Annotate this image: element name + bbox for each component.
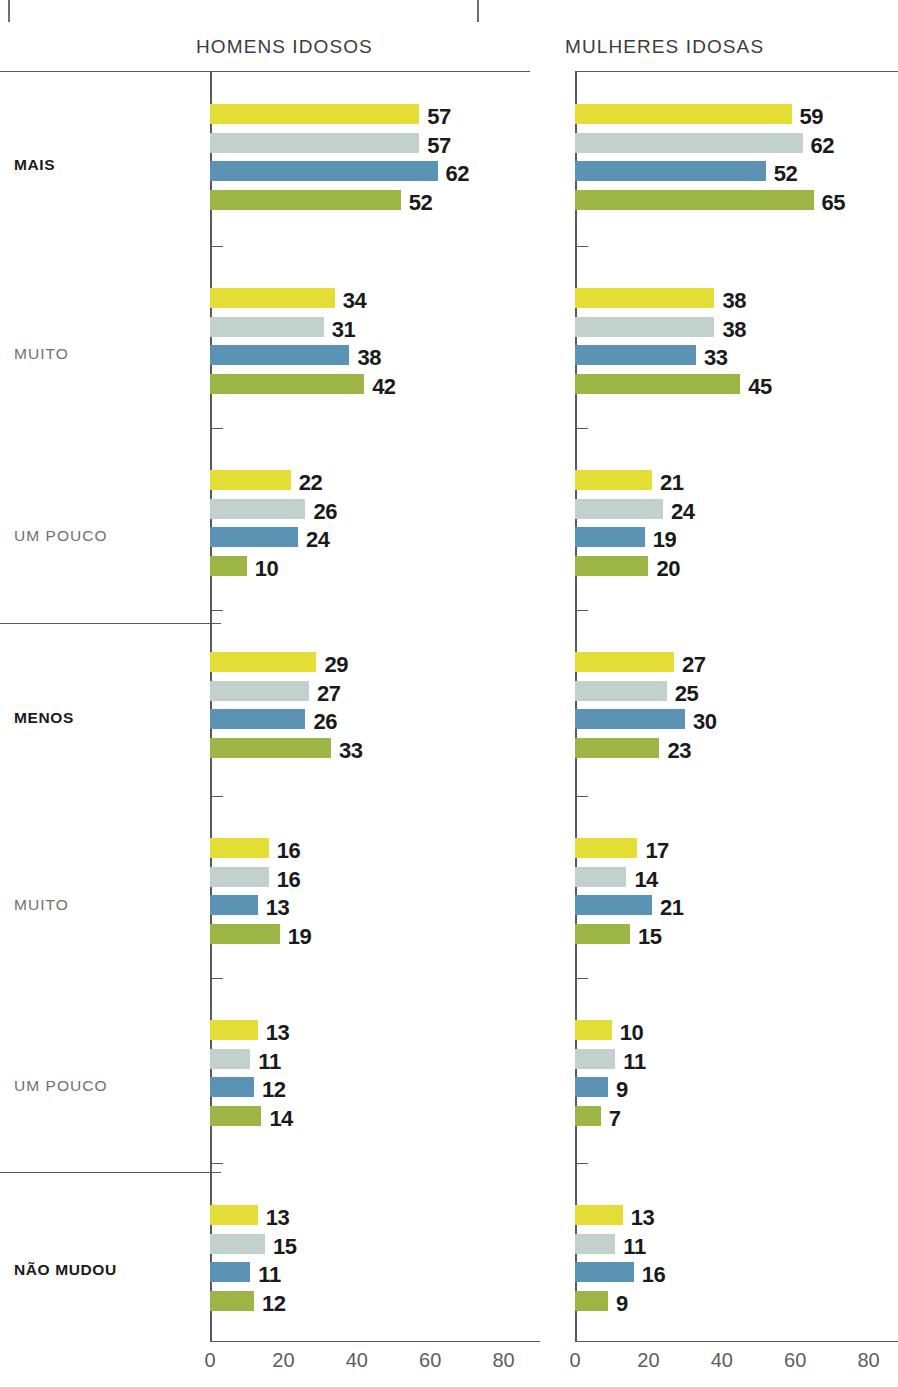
- bar-value-label: 33: [339, 740, 362, 762]
- bar: [210, 527, 298, 547]
- bar-value-label: 9: [616, 1079, 628, 1101]
- bar-value-label: 13: [631, 1207, 654, 1229]
- y-axis-line: [575, 72, 577, 1341]
- x-axis-tick-label: 80: [857, 1349, 879, 1372]
- bar-value-label: 11: [623, 1051, 645, 1073]
- bar-value-label: 16: [642, 1264, 665, 1286]
- bar: [210, 104, 419, 124]
- bar-value-label: 62: [446, 163, 469, 185]
- bar: [210, 895, 258, 915]
- bar-value-label: 38: [722, 319, 745, 341]
- bar: [210, 867, 269, 887]
- group-separator-tick: [210, 796, 223, 797]
- bar: [210, 470, 291, 490]
- bar-value-label: 42: [372, 376, 395, 398]
- bar-value-label: 10: [255, 558, 278, 580]
- bar: [575, 1049, 615, 1069]
- bar-value-label: 15: [638, 926, 661, 948]
- bar-value-label: 62: [811, 135, 834, 157]
- row-group-label: NÃO MUDOU: [14, 1261, 117, 1279]
- bar: [575, 709, 685, 729]
- x-axis-tick-label: 20: [272, 1349, 294, 1372]
- bar: [210, 924, 280, 944]
- group-separator-tick: [210, 1163, 223, 1164]
- bar: [575, 738, 659, 758]
- x-axis-line: [575, 1341, 898, 1342]
- bar-value-label: 23: [667, 740, 690, 762]
- bar-value-label: 11: [623, 1236, 645, 1258]
- bar-value-label: 57: [427, 135, 450, 157]
- group-separator-tick: [575, 978, 588, 979]
- bar: [210, 1049, 250, 1069]
- menos-divider-rule: [0, 623, 221, 624]
- bar: [575, 374, 740, 394]
- bar-value-label: 11: [258, 1051, 280, 1073]
- bar: [575, 838, 637, 858]
- bar-value-label: 30: [693, 711, 716, 733]
- bar-value-label: 26: [313, 501, 336, 523]
- bar: [210, 556, 247, 576]
- bar-value-label: 20: [656, 558, 679, 580]
- bar: [575, 867, 626, 887]
- bar-value-label: 24: [671, 501, 694, 523]
- row-group-label: UM POUCO: [14, 1077, 108, 1095]
- bar: [210, 374, 364, 394]
- group-separator-tick: [575, 610, 588, 611]
- bar: [575, 104, 792, 124]
- bar: [575, 499, 663, 519]
- bar-value-label: 11: [258, 1264, 280, 1286]
- group-separator-tick: [210, 246, 223, 247]
- bar: [210, 1291, 254, 1311]
- panel-title-homens: HOMENS IDOSOS: [196, 36, 373, 58]
- bar: [575, 161, 766, 181]
- bar-value-label: 27: [682, 654, 705, 676]
- bar: [210, 1205, 258, 1225]
- bar: [575, 133, 803, 153]
- bar: [575, 470, 652, 490]
- bar: [575, 317, 714, 337]
- bar-value-label: 59: [800, 106, 823, 128]
- x-axis-tick-label: 40: [711, 1349, 733, 1372]
- bar-value-label: 19: [653, 529, 676, 551]
- bar-value-label: 45: [748, 376, 771, 398]
- bar-value-label: 16: [277, 840, 300, 862]
- bar-value-label: 13: [266, 1207, 289, 1229]
- bar-value-label: 14: [269, 1108, 292, 1130]
- y-axis-line: [210, 72, 212, 1341]
- row-group-label: MAIS: [14, 156, 55, 174]
- row-group-label: MUITO: [14, 896, 69, 914]
- bar: [210, 161, 438, 181]
- bar: [575, 1291, 608, 1311]
- bar-value-label: 25: [675, 683, 698, 705]
- bar-value-label: 14: [634, 869, 657, 891]
- bar-value-label: 33: [704, 347, 727, 369]
- bar: [210, 288, 335, 308]
- bar: [210, 1262, 250, 1282]
- group-separator-tick: [210, 428, 223, 429]
- bar: [575, 345, 696, 365]
- bar: [575, 1234, 615, 1254]
- bar: [210, 1234, 265, 1254]
- group-separator-tick: [575, 1163, 588, 1164]
- bar-value-label: 31: [332, 319, 355, 341]
- bar-value-label: 38: [357, 347, 380, 369]
- top-rule-right: [575, 71, 898, 72]
- bar: [210, 1077, 254, 1097]
- bar-value-label: 26: [313, 711, 336, 733]
- row-group-label: UM POUCO: [14, 527, 108, 545]
- group-separator-tick: [575, 246, 588, 247]
- bar-value-label: 57: [427, 106, 450, 128]
- bar-value-label: 13: [266, 897, 289, 919]
- bar: [575, 1262, 634, 1282]
- bar: [575, 1205, 623, 1225]
- bar-value-label: 52: [409, 192, 432, 214]
- x-axis-tick-label: 40: [346, 1349, 368, 1372]
- x-axis-line: [210, 1341, 540, 1342]
- bar: [210, 838, 269, 858]
- bar: [210, 499, 305, 519]
- bar-value-label: 21: [660, 472, 683, 494]
- nao-mudou-divider-rule: [0, 1172, 221, 1173]
- bar: [210, 317, 324, 337]
- bar-value-label: 10: [620, 1022, 643, 1044]
- row-group-label: MENOS: [14, 709, 74, 727]
